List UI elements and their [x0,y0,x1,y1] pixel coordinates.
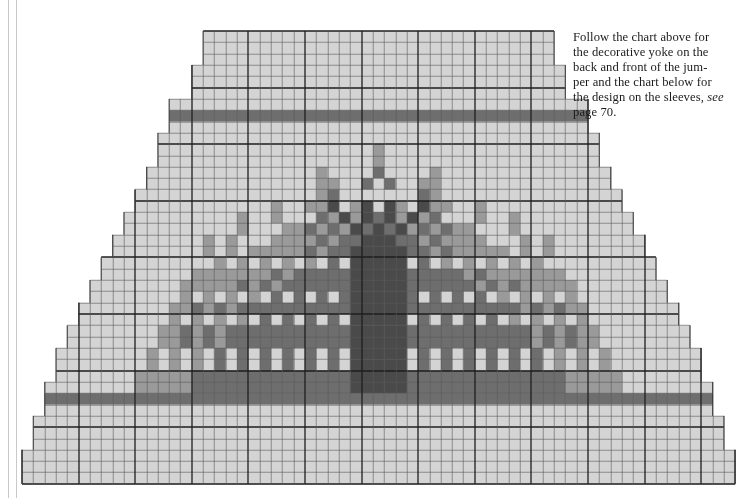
caption-line-4: per and the chart below for [573,75,712,89]
caption-see-italic: see [707,90,723,104]
chart-caption: Follow the chart above for the decorativ… [573,30,725,121]
caption-line-5: the design on the sleeves, [573,90,704,104]
caption-line-1: Follow the chart above for [573,30,709,44]
caption-line-3: back and front of the jum- [573,60,707,74]
caption-page-ref: page 70. [573,105,616,119]
caption-line-2: the decorative yoke on the [573,45,708,59]
